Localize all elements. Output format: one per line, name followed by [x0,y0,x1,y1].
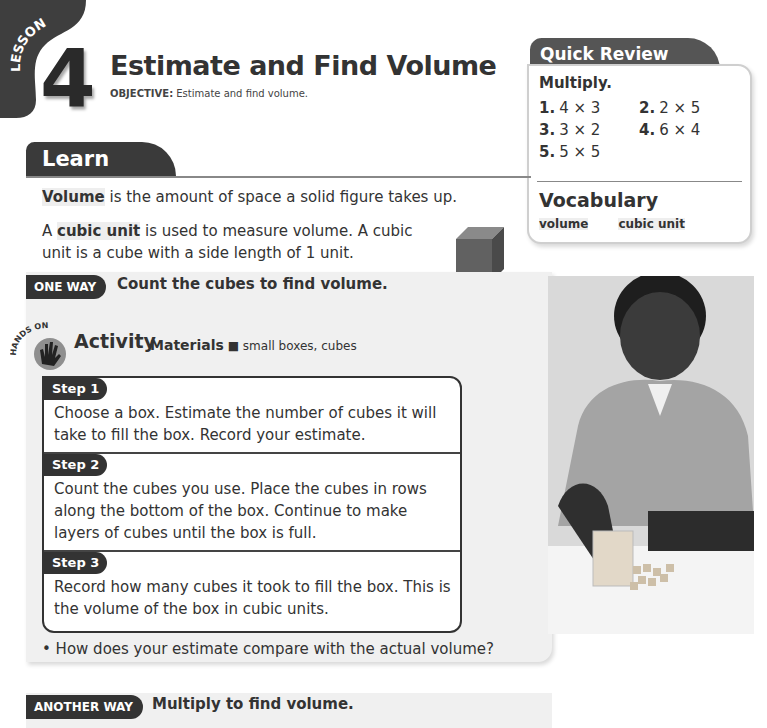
vocabulary-words: volume cubic unit [539,218,685,230]
step-text: Choose a box. Estimate the number of cub… [44,400,460,452]
student-with-cubes-image-icon [548,276,754,634]
quick-review-heading: Multiply. [539,76,750,91]
hands-on-icon: HANDS ON [10,320,72,372]
step-text: Count the cubes you use. Place the cubes… [44,476,460,550]
divider [537,181,742,182]
student-photo [548,276,754,634]
step-badge: Step 2 [44,454,107,476]
objective-text: Estimate and find volume. [173,88,308,99]
lesson-tab: LESSON 4 [0,0,86,118]
step-2: Step 2 Count the cubes you use. Place th… [44,454,460,552]
vocabulary-heading: Vocabulary [539,191,658,210]
square-bullet-icon: ■ [228,339,239,353]
term-volume: Volume [42,188,105,206]
step-3: Step 3 Record how many cubes it took to … [44,552,460,626]
materials: Materials ■ small boxes, cubes [150,337,357,353]
step-text: Record how many cubes it took to fill th… [44,574,460,626]
learn-tab: Learn [26,142,176,176]
problem-3: 3.3 × 2 [539,121,639,139]
quick-review-box: Multiply. 1.4 × 3 2.2 × 5 3.3 × 2 4.6 × … [527,64,752,244]
step-1: Step 1 Choose a box. Estimate the number… [44,378,460,454]
activity-title: Activity [74,332,156,351]
step-badge: Step 1 [44,378,107,400]
quick-review-problems: 1.4 × 3 2.2 × 5 3.3 × 2 4.6 × 4 5.5 × 5 [539,99,750,161]
another-way-badge: ANOTHER WAY [26,695,143,719]
vocab-word: cubic unit [618,218,685,230]
one-way-badge: ONE WAY [26,275,106,299]
term-cubic-unit: cubic unit [57,222,140,240]
step-badge: Step 3 [44,552,107,574]
problem-4: 4.6 × 4 [639,121,749,139]
steps-box: Step 1 Choose a box. Estimate the number… [42,376,462,633]
compare-question: • How does your estimate compare with th… [42,640,494,658]
lesson-number: 4 [40,40,94,120]
learn-rule [26,176,531,178]
objective-label: OBJECTIVE: [110,88,173,99]
objective: OBJECTIVE: Estimate and find volume. [110,88,308,99]
problem-2: 2.2 × 5 [639,99,749,117]
page-title: Estimate and Find Volume [110,52,496,79]
problem-5: 5.5 × 5 [539,143,639,161]
another-way-title: Multiply to find volume. [152,697,354,712]
one-way-title: Count the cubes to find volume. [117,277,388,292]
vocab-word: volume [539,218,588,230]
problem-1: 1.4 × 3 [539,99,639,117]
cubic-unit-definition: A cubic unit is used to measure volume. … [42,220,442,264]
volume-definition: Volume is the amount of space a solid fi… [42,188,457,206]
